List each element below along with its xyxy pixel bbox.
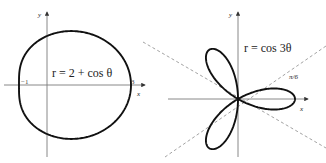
tick-minus-one: −1 (21, 78, 29, 86)
limacon-panel: y x −1 3 r = 2 + cos θ (4, 11, 145, 157)
left-y-label: y (37, 11, 42, 19)
guide-line-minus-pi-over-6 (143, 42, 326, 148)
right-x-label: x (299, 105, 304, 113)
polar-curves-figure: y x −1 3 r = 2 + cos θ y x r = cos 3θ π/… (0, 0, 326, 163)
right-y-label: y (228, 11, 233, 19)
guide-line-pi-over-6 (165, 46, 326, 157)
limacon-equation: r = 2 + cos θ (52, 66, 113, 80)
tick-three: 3 (131, 78, 135, 86)
rose-panel: y x r = cos 3θ π/6 (143, 11, 326, 157)
guide-label-pi-over-6: π/6 (289, 73, 298, 81)
rose-equation: r = cos 3θ (244, 41, 292, 55)
left-x-label: x (136, 90, 141, 98)
